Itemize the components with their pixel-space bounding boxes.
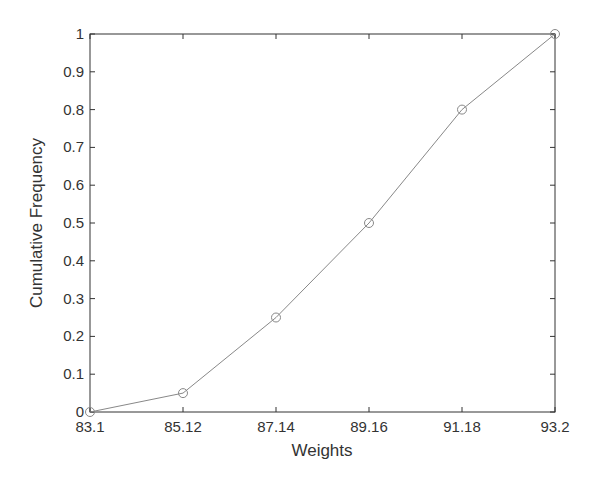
x-tick-label: 89.16 [350,418,388,435]
y-tick-label: 0.5 [63,214,84,231]
x-tick-label: 87.14 [257,418,295,435]
data-series [86,30,560,417]
cumulative-frequency-chart: 83.185.1287.1489.1691.1893.2 00.10.20.30… [0,0,604,482]
y-tick-label: 0.3 [63,290,84,307]
x-tick-label: 85.12 [164,418,202,435]
y-tick-label: 0.1 [63,365,84,382]
y-tick-label: 0 [76,403,84,420]
y-tick-label: 0.6 [63,176,84,193]
series-line [90,34,555,412]
y-tick-label: 0.9 [63,63,84,80]
y-tick-labels: 00.10.20.30.40.50.60.70.80.91 [63,25,84,420]
y-tick-label: 1 [76,25,84,42]
y-axis-label: Cumulative Frequency [27,137,46,308]
x-axis-label: Weights [291,441,352,460]
x-tick-labels: 83.185.1287.1489.1691.1893.2 [75,418,569,435]
y-tick-label: 0.8 [63,101,84,118]
x-tick-label: 83.1 [75,418,104,435]
y-tick-label: 0.2 [63,327,84,344]
y-tick-label: 0.4 [63,252,84,269]
y-tick-label: 0.7 [63,138,84,155]
x-tick-label: 91.18 [443,418,481,435]
x-tick-label: 93.2 [540,418,569,435]
